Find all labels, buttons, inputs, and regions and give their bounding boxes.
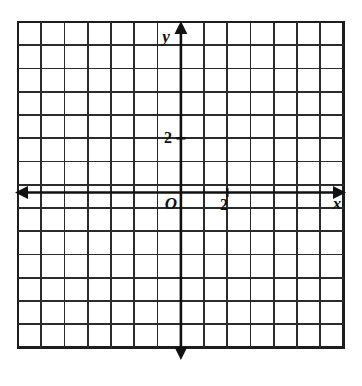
x-tick-label-2: 2	[220, 196, 228, 213]
coordinate-grid-svg: y x O 2 2	[0, 0, 362, 386]
y-tick-label-2: 2	[164, 129, 172, 146]
y-axis-label: y	[160, 27, 170, 46]
coordinate-plane-figure: y x O 2 2	[0, 0, 362, 386]
x-axis-label: x	[332, 194, 342, 213]
origin-label: O	[165, 194, 177, 213]
